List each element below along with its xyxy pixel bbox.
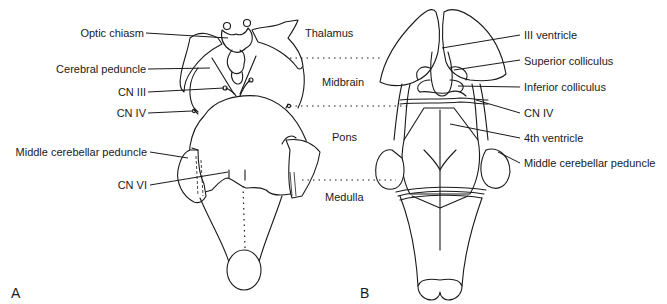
label-inferior-colliculus: Inferior colliculus (524, 81, 606, 93)
label-cerebral-peduncle: Cerebral peduncle (56, 63, 146, 75)
label-middle-cerebellar-peduncle-a: Middle cerebellar peduncle (16, 146, 147, 158)
label-cn-iv-a: CN IV (117, 107, 146, 119)
label-cn-vi: CN VI (118, 179, 147, 191)
label-superior-colliculus: Superior colliculus (524, 55, 613, 67)
label-4th-ventricle: 4th ventricle (524, 132, 583, 144)
region-label-medulla: Medulla (325, 191, 364, 203)
region-label-thalamus: Thalamus (305, 27, 353, 39)
label-middle-cerebellar-peduncle-b: Middle cerebellar peduncle (524, 157, 655, 169)
label-cn-iv-b: CN IV (524, 107, 553, 119)
panel-label-a: A (11, 286, 20, 300)
panel-label-b: B (360, 286, 369, 300)
region-label-midbrain: Midbrain (322, 76, 364, 88)
label-iii-ventricle: III ventricle (524, 29, 577, 41)
region-label-pons: Pons (332, 131, 357, 143)
label-optic-chiasm: Optic chiasm (80, 27, 144, 39)
label-cn-iii: CN III (118, 86, 146, 98)
panel-a-drawing (178, 20, 320, 291)
panel-b-drawing (376, 10, 510, 300)
